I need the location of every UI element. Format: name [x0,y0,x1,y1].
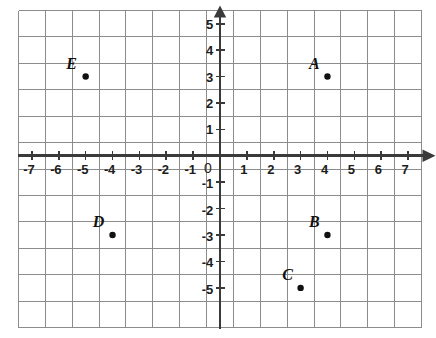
x-tick-label-neg3: -3 [131,163,142,176]
y-tick-label-5: 5 [206,17,213,30]
data-point-e [82,73,88,79]
x-tick-label-neg6: -6 [50,163,61,176]
coordinate-plane-graph: -7-6-5-4-3-2-11234567 54321-1-2-3-4-5 0 … [0,0,436,338]
x-tick-label-neg1: -1 [185,163,196,176]
x-tick-label-2: 2 [267,163,274,176]
y-tick-label-neg5: -5 [202,282,213,295]
x-tick-label-3: 3 [294,163,301,176]
origin-label: 0 [204,161,212,175]
data-point-d [109,232,115,238]
point-label-d: D [93,214,105,230]
point-label-e: E [66,56,77,72]
y-tick-label-2: 2 [206,96,213,109]
data-point-a [324,73,330,79]
y-tick-label-neg4: -4 [202,256,213,269]
point-label-c: C [282,267,293,283]
y-tick-label-4: 4 [206,44,213,57]
y-tick-label-neg3: -3 [202,230,213,243]
coordinate-plane-svg [0,0,436,338]
x-tick-label-neg2: -2 [158,163,169,176]
x-tick-label-neg7: -7 [23,163,34,176]
y-tick-label-1: 1 [206,123,213,136]
y-tick-label-neg2: -2 [202,203,213,216]
point-label-a: A [309,56,320,72]
x-tick-label-7: 7 [402,163,409,176]
y-tick-label-neg1: -1 [202,177,213,190]
x-tick-label-neg4: -4 [104,163,115,176]
x-tick-label-5: 5 [348,163,355,176]
x-tick-label-neg5: -5 [77,163,88,176]
data-point-b [324,232,330,238]
x-tick-label-6: 6 [375,163,382,176]
x-tick-label-1: 1 [240,163,247,176]
y-tick-label-3: 3 [206,70,213,83]
point-label-b: B [309,214,320,230]
x-tick-label-4: 4 [321,163,328,176]
data-point-c [297,285,303,291]
